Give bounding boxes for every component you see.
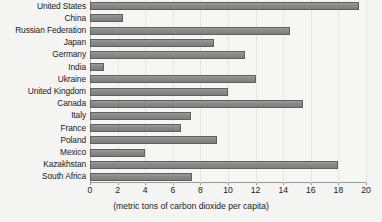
bar <box>90 100 303 108</box>
bar <box>90 173 192 181</box>
x-tick-mark <box>283 183 284 185</box>
bar <box>90 51 245 59</box>
bar <box>90 149 145 157</box>
x-axis-tick-labels: 02468101214161820 <box>0 185 382 199</box>
category-label: United States <box>0 2 86 11</box>
x-tick-label: 20 <box>361 185 371 196</box>
category-label: Kazakhstan <box>0 160 86 169</box>
x-tick-label: 8 <box>198 185 203 196</box>
category-label: China <box>0 14 86 23</box>
bar <box>90 161 338 169</box>
x-tick-label: 12 <box>251 185 261 196</box>
category-label: Mexico <box>0 148 86 157</box>
gridline <box>366 0 367 183</box>
x-tick-label: 0 <box>88 185 93 196</box>
plot-area <box>90 0 366 183</box>
category-label: South Africa <box>0 172 86 181</box>
x-tick-mark <box>173 183 174 185</box>
category-label: Japan <box>0 38 86 47</box>
x-axis-title: (metric tons of carbon dioxide per capit… <box>0 200 382 212</box>
category-label: United Kingdom <box>0 87 86 96</box>
bar <box>90 27 290 35</box>
category-label: France <box>0 124 86 133</box>
gridline <box>338 0 339 183</box>
category-label: Canada <box>0 99 86 108</box>
x-tick-mark <box>338 183 339 185</box>
x-tick-mark <box>145 183 146 185</box>
bar <box>90 14 123 22</box>
category-label: India <box>0 63 86 72</box>
x-tick-label: 2 <box>115 185 120 196</box>
bar <box>90 136 217 144</box>
x-tick-label: 16 <box>306 185 316 196</box>
bar <box>90 112 191 120</box>
co2-per-capita-bar-chart: United StatesChinaRussian FederationJapa… <box>0 0 382 222</box>
x-tick-mark <box>118 183 119 185</box>
x-tick-mark <box>311 183 312 185</box>
x-tick-mark <box>256 183 257 185</box>
gridline <box>311 0 312 183</box>
bar <box>90 75 256 83</box>
x-tick-mark <box>200 183 201 185</box>
x-tick-mark <box>228 183 229 185</box>
category-label: Ukraine <box>0 75 86 84</box>
category-label: Russian Federation <box>0 26 86 35</box>
x-tick-mark <box>366 183 367 185</box>
bar <box>90 124 181 132</box>
category-label: Poland <box>0 136 86 145</box>
bar <box>90 39 214 47</box>
x-tick-label: 14 <box>278 185 288 196</box>
x-tick-label: 6 <box>170 185 175 196</box>
bar <box>90 88 228 96</box>
category-axis-labels: United StatesChinaRussian FederationJapa… <box>0 0 86 183</box>
x-tick-label: 4 <box>143 185 148 196</box>
category-label: Germany <box>0 50 86 59</box>
x-tick-label: 18 <box>334 185 344 196</box>
x-tick-label: 10 <box>223 185 233 196</box>
category-label: Italy <box>0 111 86 120</box>
bar <box>90 2 359 10</box>
bar <box>90 63 104 71</box>
x-tick-mark <box>90 183 91 185</box>
